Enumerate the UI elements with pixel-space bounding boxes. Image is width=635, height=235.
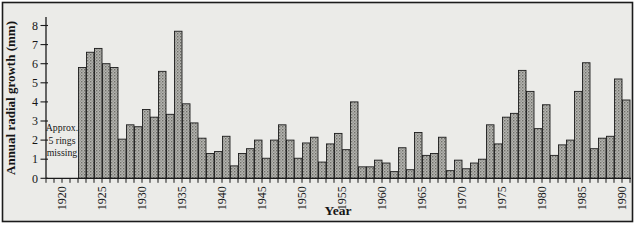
bar-1937 <box>199 138 207 178</box>
bar-1950 <box>303 143 311 178</box>
bar-1945 <box>263 158 271 178</box>
x-tick-label-1950: 1950 <box>296 186 310 210</box>
bar-1942 <box>239 153 247 178</box>
bar-1931 <box>151 117 159 178</box>
bar-1940 <box>223 136 231 178</box>
bar-1968 <box>447 171 455 179</box>
x-tick-label-1960: 1960 <box>376 186 390 210</box>
bar-1954 <box>335 133 343 178</box>
bar-1970 <box>463 169 471 179</box>
x-axis-title: Year <box>325 203 352 218</box>
bar-1981 <box>551 155 559 178</box>
y-tick-label-2: 2 <box>32 133 38 147</box>
bar-1988 <box>607 136 615 178</box>
bar-1959 <box>375 160 383 178</box>
bar-1990 <box>623 100 631 178</box>
bar-1957 <box>359 167 367 178</box>
bar-1984 <box>575 91 583 178</box>
bar-1941 <box>231 166 239 178</box>
bar-1973 <box>487 125 495 178</box>
y-tick-label-8: 8 <box>32 19 38 33</box>
bar-1929 <box>135 127 143 179</box>
bar-1932 <box>159 71 167 178</box>
x-tick-label-1925: 1925 <box>96 186 110 210</box>
bar-1952 <box>319 162 327 178</box>
x-tick-label-1990: 1990 <box>616 186 630 210</box>
bar-1947 <box>279 125 287 178</box>
bar-1939 <box>215 152 223 179</box>
bar-1979 <box>535 129 543 179</box>
bar-1964 <box>415 132 423 178</box>
x-tick-label-1970: 1970 <box>456 186 470 210</box>
bar-1928 <box>127 125 135 178</box>
bar-1933 <box>167 114 175 178</box>
bar-1951 <box>311 137 319 178</box>
bar-1962 <box>399 148 407 179</box>
bar-1986 <box>591 149 599 179</box>
bar-1963 <box>407 170 415 179</box>
bar-1936 <box>191 123 199 178</box>
bar-1943 <box>247 149 255 179</box>
bar-1982 <box>559 145 567 178</box>
x-tick-label-1935: 1935 <box>176 186 190 210</box>
bar-1956 <box>351 102 359 178</box>
x-tick-label-1945: 1945 <box>256 186 270 210</box>
bar-1965 <box>423 155 431 178</box>
bar-1989 <box>615 79 623 178</box>
bar-1944 <box>255 140 263 178</box>
bar-1953 <box>327 144 335 178</box>
bar-1946 <box>271 140 279 178</box>
bar-1934 <box>175 31 183 178</box>
bar-1972 <box>479 159 487 178</box>
bar-1949 <box>295 158 303 178</box>
bar-1983 <box>567 140 575 178</box>
bar-1978 <box>527 91 535 178</box>
y-axis-title: Annual radial growth (mm) <box>3 21 18 175</box>
bar-1985 <box>583 63 591 179</box>
x-tick-label-1985: 1985 <box>576 186 590 210</box>
annotation-line-3: missing <box>47 147 78 158</box>
annotation-line-1: Approx. <box>46 122 78 133</box>
bar-1960 <box>383 163 391 178</box>
annual-radial-growth-bar-chart: 0123456781920192519301935194019451950195… <box>0 0 635 235</box>
bar-1923 <box>87 52 95 178</box>
bar-1980 <box>543 105 551 179</box>
y-tick-label-3: 3 <box>32 114 38 128</box>
bar-1924 <box>95 48 103 178</box>
bar-1926 <box>111 68 119 179</box>
x-tick-label-1965: 1965 <box>416 186 430 210</box>
bar-1922 <box>79 68 87 179</box>
bar-1961 <box>391 172 399 179</box>
y-tick-label-0: 0 <box>32 172 38 186</box>
bar-1930 <box>143 110 151 179</box>
bar-1925 <box>103 64 111 179</box>
bar-1955 <box>343 150 351 179</box>
bar-1938 <box>207 153 215 178</box>
bar-1976 <box>511 113 519 178</box>
bar-1927 <box>119 139 127 178</box>
x-tick-label-1980: 1980 <box>536 186 550 210</box>
bar-1971 <box>471 163 479 178</box>
y-tick-label-4: 4 <box>32 95 38 109</box>
x-tick-label-1975: 1975 <box>496 186 510 210</box>
figure-page: 0123456781920192519301935194019451950195… <box>0 0 635 235</box>
x-tick-label-1930: 1930 <box>136 186 150 210</box>
bar-1987 <box>599 138 607 178</box>
x-tick-label-1920: 1920 <box>56 186 70 210</box>
bar-1948 <box>287 140 295 178</box>
y-tick-label-7: 7 <box>32 38 38 52</box>
x-tick-label-1940: 1940 <box>216 186 230 210</box>
bar-1975 <box>503 117 511 178</box>
bar-1935 <box>183 104 191 178</box>
bar-1966 <box>431 153 439 178</box>
y-tick-label-1: 1 <box>32 152 38 166</box>
bar-1977 <box>519 70 527 178</box>
annotation-line-2: 5 rings <box>49 135 76 146</box>
y-tick-label-6: 6 <box>32 57 38 71</box>
bar-1967 <box>439 137 447 178</box>
bar-1958 <box>367 167 375 178</box>
bar-1974 <box>495 144 503 178</box>
y-tick-label-5: 5 <box>32 76 38 90</box>
bar-1969 <box>455 160 463 178</box>
